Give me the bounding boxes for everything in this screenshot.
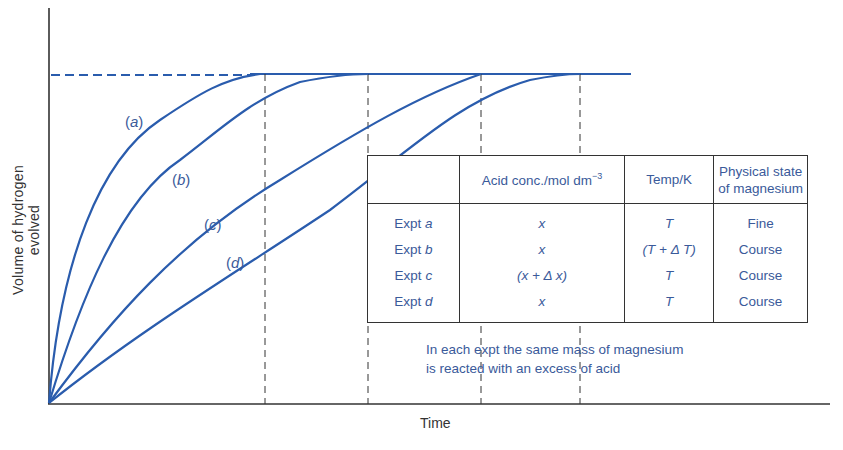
cell-expt: Expt c — [368, 262, 460, 288]
cell-acid: x — [459, 236, 625, 262]
cell-temp: T — [625, 204, 714, 237]
cell-acid: (x + Δ x) — [459, 262, 625, 288]
header-state: Physical state of magnesium — [714, 156, 808, 204]
header-acid: Acid conc./mol dm−3 — [459, 156, 625, 204]
cell-temp: T — [625, 288, 714, 323]
y-axis-label: Volume of hydrogen evolved — [10, 140, 42, 320]
cell-state: Course — [714, 236, 808, 262]
cell-expt: Expt d — [368, 288, 460, 323]
cell-state: Course — [714, 262, 808, 288]
experiment-note: In each expt the same mass of magnesium … — [426, 340, 683, 378]
experiment-table: Acid conc./mol dm−3 Temp/K Physical stat… — [367, 155, 808, 323]
cell-acid: x — [459, 288, 625, 323]
cell-state: Fine — [714, 204, 808, 237]
curve-label-b: (b) — [172, 171, 190, 188]
cell-temp: T — [625, 262, 714, 288]
header-temp: Temp/K — [625, 156, 714, 204]
header-empty — [368, 156, 460, 204]
curve-label-d: (d) — [226, 254, 244, 271]
note-line-2: is reacted with an excess of acid — [426, 359, 683, 378]
curve-b — [49, 74, 368, 403]
cell-state: Course — [714, 288, 808, 323]
curve-label-c: (c) — [204, 216, 222, 233]
cell-temp: (T + Δ T) — [625, 236, 714, 262]
table-row: Expt a x T Fine — [368, 204, 808, 237]
x-axis-label: Time — [420, 415, 451, 431]
cell-expt: Expt b — [368, 236, 460, 262]
table-row: Expt b x (T + Δ T) Course — [368, 236, 808, 262]
table-row: Expt d x T Course — [368, 288, 808, 323]
table-row: Expt c (x + Δ x) T Course — [368, 262, 808, 288]
cell-expt: Expt a — [368, 204, 460, 237]
cell-acid: x — [459, 204, 625, 237]
note-line-1: In each expt the same mass of magnesium — [426, 340, 683, 359]
curve-label-a: (a) — [125, 113, 143, 130]
